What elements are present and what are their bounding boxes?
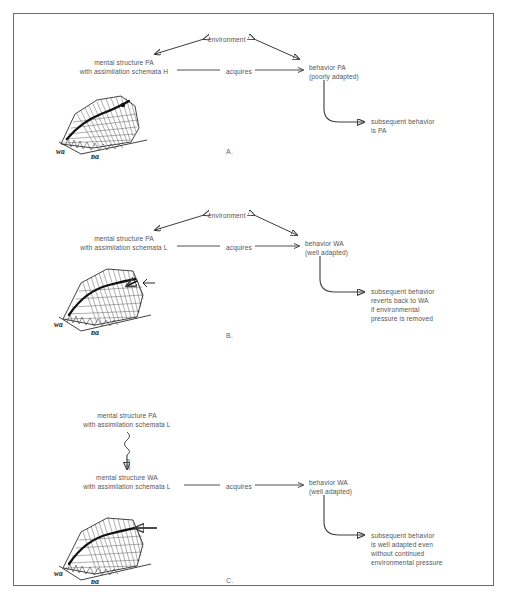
landscape-c-label-wa: wa (54, 569, 63, 578)
landscape-drawing-c: wa pa (51, 506, 161, 584)
panel-a-mental-structure-line1: mental structure PA (94, 59, 154, 67)
panel-c-behavior-line1: behavior WA (309, 479, 348, 487)
landscape-b-label-pa: pa (90, 328, 99, 335)
panel-a-environment-label: environment (208, 36, 246, 44)
panel-b-mental-structure-line2: with assimilation schemata L (80, 244, 167, 252)
panel-c-subsequent-line4: environmental pressure (371, 559, 443, 567)
panel-c-subsequent-line1: subsequent behavior (371, 532, 435, 540)
landscape-drawing-b: wa pa (51, 257, 161, 335)
landscape-drawing-a: wa pa (51, 84, 156, 159)
panel-a-letter: A. (226, 148, 233, 155)
landscape-c-label-pa: pa (90, 577, 99, 584)
panel-b-behavior-line2: (well adapted) (305, 249, 348, 257)
panel-a-subsequent-line1: subsequent behavior (371, 118, 435, 126)
panel-b-subsequent-line4: pressure is removed (371, 315, 433, 323)
panel-b-subsequent-line2: reverts back to WA (371, 297, 429, 305)
panel-c-mental-structure-line1: mental structure PA (97, 412, 157, 420)
panel-c-letter: C. (226, 577, 234, 584)
panel-c-behavior-line2: (well adapted) (309, 488, 352, 496)
panel-a-subsequent-line2: is PA (371, 127, 387, 135)
panel-b-environment-label: environment (208, 212, 246, 220)
panel-c-acquires-label: acquires (226, 483, 252, 491)
panel-c-subsequent-line3: without continued (371, 550, 424, 558)
panel-a-behavior-line1: behavior PA (309, 64, 346, 72)
panel-a-behavior-line2: (poorly adapted) (309, 73, 359, 81)
panel-b-behavior-line1: behavior WA (305, 240, 344, 248)
panel-b-acquires-label: acquires (226, 244, 252, 252)
panel-b-subsequent-line1: subsequent behavior (371, 288, 435, 296)
landscape-b-label-wa: wa (54, 320, 63, 329)
panel-c-subsequent-line2: is well adapted even (371, 541, 433, 549)
panel-c-mental-structure2-line2: with assimilation schemata L (83, 483, 170, 491)
panel-b-subsequent-line3: if environmental (371, 306, 419, 314)
panel-b-letter: B. (226, 332, 233, 339)
panel-a-acquires-label: acquires (226, 68, 252, 76)
panel-c-aha-label: aha! (125, 458, 131, 470)
figure-frame: mental structure PA with assimilation sc… (13, 13, 494, 586)
panel-b-mental-structure-line1: mental structure PA (94, 235, 154, 243)
landscape-a-label-pa: pa (90, 152, 99, 159)
panel-a-mental-structure-line2: with assimilation schemata H (80, 68, 168, 76)
panel-c-mental-structure-line2: with assimilation schemata L (83, 421, 170, 429)
landscape-a-label-wa: wa (56, 147, 65, 156)
panel-c-mental-structure2-line1: mental structure WA (96, 474, 158, 482)
